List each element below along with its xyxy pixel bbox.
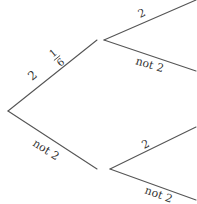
probability-fraction-level1-upper: 1 6 (46, 46, 67, 69)
branch-level2-upper-upper (104, 0, 196, 40)
fraction-denominator: 6 (55, 56, 67, 69)
label-level2-upper-upper: 2 (136, 6, 148, 21)
label-level2-lower-lower: not 2 (143, 184, 174, 204)
label-level2-lower-upper: 2 (140, 137, 152, 152)
label-level1-lower: not 2 (30, 137, 61, 163)
branch-level2-lower-upper (110, 127, 196, 169)
label-level2-upper-lower: not 2 (134, 54, 165, 75)
label-level1-upper: 2 (25, 68, 40, 84)
probability-tree-diagram: 2 1 6 not 2 2 not 2 2 not 2 (0, 0, 197, 204)
